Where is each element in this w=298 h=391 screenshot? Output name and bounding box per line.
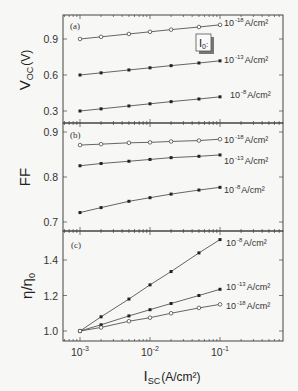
xtick-1e-3: 10-3 — [71, 345, 89, 358]
open-circle-marker — [127, 319, 131, 323]
ylabel-b: FF — [16, 168, 33, 186]
filled-square-marker — [100, 315, 103, 318]
panel-b-series — [78, 137, 222, 214]
filled-square-marker — [149, 158, 152, 161]
filled-square-marker — [127, 68, 130, 71]
panel-b: (b) 0.9 0.8 0.7 FF 10-18A/cm² 10-13A/cm²… — [16, 123, 283, 231]
open-circle-marker — [99, 326, 103, 330]
filled-square-marker — [219, 59, 222, 62]
filled-square-marker — [219, 153, 222, 156]
filled-square-marker — [197, 62, 200, 65]
filled-square-marker — [170, 302, 173, 305]
filled-square-marker — [170, 100, 173, 103]
svg-text:VOC(V): VOC(V) — [16, 50, 35, 91]
series-label-a-18: 10-18A/cm² — [224, 17, 268, 28]
open-circle-marker — [148, 30, 152, 34]
series-label-b-18: 10-18A/cm² — [224, 134, 268, 145]
open-circle-marker — [169, 28, 173, 32]
filled-square-marker — [197, 294, 200, 297]
filled-square-marker — [197, 98, 200, 101]
series-label-a-8: 10-8A/cm² — [230, 89, 271, 100]
filled-square-marker — [170, 64, 173, 67]
filled-square-marker — [149, 283, 152, 286]
filled-square-marker — [100, 71, 103, 74]
filled-square-marker — [79, 74, 82, 77]
series-label-a-13: 10-13A/cm² — [224, 54, 268, 65]
filled-square-marker — [149, 308, 152, 311]
panel-a-tag: (a) — [70, 21, 80, 31]
filled-square-marker — [219, 186, 222, 189]
filled-square-marker — [197, 189, 200, 192]
open-circle-marker — [78, 37, 82, 41]
series-label-b-8: 10-8A/cm² — [224, 184, 265, 195]
open-circle-marker — [78, 143, 82, 147]
svg-text:η/η0: η/η0 — [18, 273, 37, 299]
ylabel-a: VOC(V) — [16, 50, 35, 91]
series-label-c-13: 10-13A/cm² — [226, 281, 270, 292]
panel-c-series — [78, 238, 222, 333]
filled-square-marker — [170, 193, 173, 196]
filled-square-marker — [219, 95, 222, 98]
panel-c-tag: (c) — [71, 240, 81, 250]
open-circle-marker — [169, 140, 173, 144]
panel-a-frame — [63, 15, 283, 123]
filled-square-marker — [127, 298, 130, 301]
open-circle-marker — [127, 141, 131, 145]
series-label-b-13: 10-13A/cm² — [224, 155, 268, 166]
open-circle-marker — [197, 306, 201, 310]
open-circle-marker — [218, 23, 222, 27]
filled-square-marker — [197, 251, 200, 254]
filled-square-marker — [149, 196, 152, 199]
panel-a-ticks — [63, 15, 283, 123]
open-circle-marker — [99, 142, 103, 146]
ytick-c-1.0: 1.0 — [43, 325, 58, 337]
filled-square-marker — [170, 156, 173, 159]
filled-square-marker — [79, 211, 82, 214]
filled-square-marker — [197, 155, 200, 158]
xtick-1e-1: 10-1 — [211, 345, 229, 358]
ylabel-a-sub: OC — [25, 66, 35, 80]
ytick-c-1.2: 1.2 — [43, 290, 58, 302]
open-circle-marker — [148, 316, 152, 320]
filled-square-marker — [149, 66, 152, 69]
filled-square-marker — [219, 238, 222, 241]
filled-square-marker — [149, 102, 152, 105]
ytick-a-0.3: 0.3 — [43, 105, 58, 117]
filled-square-marker — [219, 288, 222, 291]
ytick-a-0.6: 0.6 — [43, 69, 58, 81]
ylabel-a-unit: (V) — [19, 50, 33, 66]
ylabel-c: η/η0 — [18, 273, 37, 299]
filled-square-marker — [100, 162, 103, 165]
ytick-b-0.8: 0.8 — [43, 171, 58, 183]
open-circle-marker — [169, 311, 173, 315]
filled-square-marker — [127, 104, 130, 107]
ytick-b-0.7: 0.7 — [43, 216, 58, 228]
open-circle-marker — [127, 32, 131, 36]
filled-square-marker — [127, 160, 130, 163]
svg-text:FF: FF — [16, 168, 33, 186]
open-circle-marker — [218, 303, 222, 307]
series-label-c-18: 10-18A/cm² — [226, 300, 270, 311]
open-circle-marker — [197, 139, 201, 143]
open-circle-marker — [197, 25, 201, 29]
open-circle-marker — [78, 329, 82, 333]
open-circle-marker — [218, 137, 222, 141]
panel-b-tag: (b) — [70, 130, 81, 140]
filled-square-marker — [79, 110, 82, 113]
filled-square-marker — [100, 107, 103, 110]
ytick-c-1.4: 1.4 — [43, 254, 58, 266]
xtick-1e-2: 10-2 — [141, 345, 159, 358]
panel-a: (a) 0.9 0.6 0.3 VOC(V) I0: 10-18A/cm² 10… — [16, 15, 283, 123]
ytick-b-0.9: 0.9 — [43, 126, 58, 138]
series-label-c-8: 10-8A/cm² — [226, 237, 267, 248]
filled-square-marker — [170, 270, 173, 273]
ylabel-a-main: V — [16, 80, 33, 90]
open-circle-marker — [148, 141, 152, 145]
filled-square-marker — [100, 206, 103, 209]
filled-square-marker — [127, 314, 130, 317]
i0-annotation-box: I0: — [196, 34, 214, 54]
filled-square-marker — [127, 200, 130, 203]
panel-c: (c) 1.4 1.2 1.0 η/η0 10-8A/cm² 10-13A/cm… — [18, 231, 283, 386]
open-circle-marker — [99, 35, 103, 39]
filled-square-marker — [79, 164, 82, 167]
